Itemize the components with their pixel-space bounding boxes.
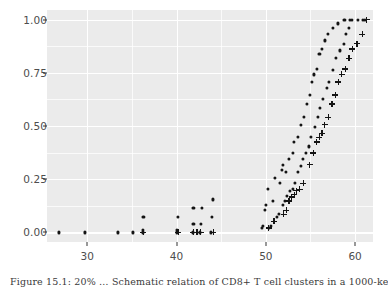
data-point-series-1-dots (287, 157, 290, 160)
data-point-series-2-dots (319, 107, 322, 110)
data-point-series-3-plus (329, 101, 335, 107)
y-axis-tick-mark (43, 72, 47, 73)
data-point-series-2-dots (294, 182, 297, 185)
data-point-series-1-dots (199, 223, 202, 226)
data-point-series-1-dots (192, 206, 195, 209)
data-point-series-1-dots (323, 39, 326, 42)
data-point-series-2-dots (325, 87, 328, 90)
data-point-series-2-dots (296, 171, 299, 174)
figure-caption: Figure 15.1: 20% … Schematic relation of… (10, 276, 388, 287)
x-axis-tick-label: 60 (348, 250, 361, 262)
gridline-minor-horizontal (47, 46, 373, 47)
data-point-series-1-dots (327, 33, 330, 36)
gridline-major-horizontal (47, 179, 373, 180)
data-point-series-1-dots (311, 80, 314, 83)
data-point-series-3-plus (198, 229, 204, 235)
data-point-series-1-dots (303, 116, 306, 119)
data-point-series-3-plus (335, 79, 341, 85)
data-point-series-1-dots (280, 169, 283, 172)
data-point-series-1-dots (318, 53, 321, 56)
data-point-series-2-dots (338, 49, 341, 52)
data-point-series-1-dots (279, 182, 282, 185)
data-point-series-3-plus (175, 229, 181, 235)
data-point-series-3-plus (354, 41, 360, 47)
data-point-series-1-dots (331, 27, 334, 30)
data-point-series-1-dots (337, 22, 340, 25)
y-axis-tick-mark (43, 179, 47, 180)
x-axis-tick-label: 50 (259, 250, 272, 262)
data-point-series-1-dots (285, 171, 288, 174)
data-point-series-3-plus (322, 122, 328, 128)
data-point-series-1-dots (262, 224, 265, 227)
data-point-series-3-plus (210, 229, 216, 235)
plot-panel (47, 10, 373, 242)
x-axis-tick-label: 40 (170, 250, 183, 262)
data-point-series-3-plus (300, 180, 306, 186)
data-point-series-3-plus (364, 17, 370, 23)
x-axis-tick-mark (355, 242, 356, 246)
data-point-series-3-plus (140, 229, 146, 235)
data-point-series-2-dots (313, 126, 316, 129)
gridline-major-horizontal (47, 73, 373, 74)
data-point-series-1-dots (296, 136, 299, 139)
data-point-series-3-plus (346, 55, 352, 61)
data-point-series-3-plus (307, 162, 313, 168)
data-point-series-2-dots (321, 98, 324, 101)
data-point-series-2-dots (331, 69, 334, 72)
data-point-series-3-plus (266, 225, 272, 231)
data-point-series-2-dots (302, 157, 305, 160)
y-axis-tick-mark (43, 232, 47, 233)
data-point-series-1-dots (212, 198, 215, 201)
data-point-series-1-dots (313, 73, 316, 76)
data-point-series-1-dots (192, 223, 195, 226)
data-point-series-1-dots (271, 199, 274, 202)
x-axis-tick-mark (87, 242, 88, 246)
data-point-series-3-plus (310, 150, 316, 156)
data-point-series-2-dots (304, 151, 307, 154)
y-axis-tick-mark (43, 19, 47, 20)
data-point-series-2-dots (299, 165, 302, 168)
data-point-series-3-plus (297, 186, 303, 192)
data-point-series-1-dots (291, 151, 294, 154)
gridline-minor-horizontal (47, 206, 373, 207)
data-point-series-2-dots (328, 80, 331, 83)
data-point-series-3-plus (325, 114, 331, 120)
data-point-series-2-dots (310, 136, 313, 139)
data-point-series-1-dots (305, 102, 308, 105)
data-point-series-1-dots (211, 215, 214, 218)
data-point-series-1-dots (293, 140, 296, 143)
data-point-series-3-plus (271, 218, 277, 224)
data-point-series-2-dots (335, 57, 338, 60)
y-axis-tick-mark (43, 126, 47, 127)
data-point-series-2-dots (316, 116, 319, 119)
data-point-series-3-plus (319, 130, 325, 136)
data-point-series-1-dots (266, 188, 269, 191)
gridline-major-vertical (87, 10, 88, 242)
gridline-major-horizontal (47, 20, 373, 21)
data-point-series-3-plus (359, 31, 365, 37)
gridline-major-vertical (266, 10, 267, 242)
data-point-series-3-plus (339, 71, 345, 77)
data-point-series-3-plus (283, 207, 289, 213)
x-axis-tick-label: 30 (81, 250, 94, 262)
data-point-series-2-dots (345, 33, 348, 36)
data-point-series-1-dots (200, 206, 203, 209)
gridline-minor-horizontal (47, 153, 373, 154)
x-axis-tick-mark (265, 242, 266, 246)
data-point-series-2-dots (342, 42, 345, 45)
data-point-series-3-plus (349, 46, 355, 52)
data-point-series-1-dots (281, 163, 284, 166)
x-axis-tick-mark (176, 242, 177, 246)
data-point-series-2-dots (347, 27, 350, 30)
data-point-series-1-dots (142, 215, 145, 218)
data-point-series-1-dots (177, 215, 180, 218)
figure-container: 0.000.250.500.751.0030405060 Figure 15.1… (0, 0, 392, 288)
gridline-major-vertical (177, 10, 178, 242)
data-point-series-3-plus (332, 92, 338, 98)
data-point-series-3-plus (342, 66, 348, 72)
data-point-series-1-dots (315, 67, 318, 70)
data-point-series-1-dots (321, 47, 324, 50)
